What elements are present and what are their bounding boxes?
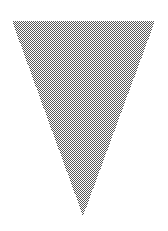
image-canvas: [0, 0, 168, 231]
triangle-graphic: [0, 0, 168, 231]
